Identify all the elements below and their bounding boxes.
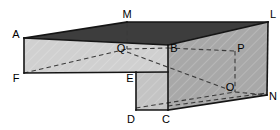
faces-group [24,22,268,110]
geometry-figure: A M L Q B P F E O N D C [0,0,280,130]
edge-L-N [267,22,268,95]
vertex-label-L: L [270,9,276,20]
vertex-label-N: N [269,91,277,102]
vertex-label-Q: Q [117,43,126,54]
solid-drawing [0,0,280,130]
vertex-label-D: D [127,114,135,125]
vertex-label-E: E [126,73,133,84]
vertex-label-P: P [237,43,244,54]
vertex-label-C: C [162,114,170,125]
vertex-label-F: F [13,73,20,84]
face-step-front-hatch [136,72,168,110]
vertex-label-B: B [170,43,177,54]
edge-F-E [24,72,168,73]
vertex-label-O: O [226,82,235,93]
vertex-label-A: A [12,29,19,40]
vertex-label-M: M [122,9,131,20]
